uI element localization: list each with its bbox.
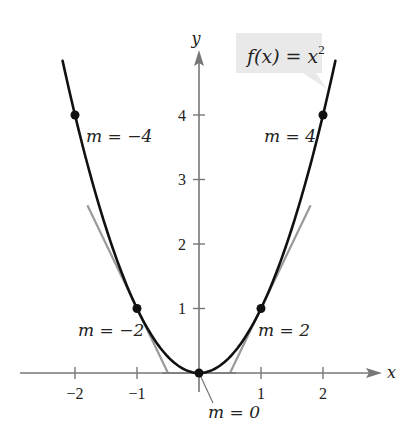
function-label-text: f(x) = x2: [245, 42, 325, 67]
slope-label-m-2: m = 2: [258, 320, 310, 340]
x-tick-label: 1: [257, 385, 265, 402]
x-tick-label: 2: [319, 385, 327, 402]
point-1-1: [257, 304, 266, 313]
y-tick-label: 3: [178, 171, 186, 188]
point-neg2-4: [71, 111, 80, 120]
x-axis: x −2 −1 1 2: [20, 363, 396, 402]
x-tick-label: −1: [128, 385, 145, 402]
x-axis-label: x: [387, 363, 396, 382]
y-tick-label: 2: [178, 236, 186, 253]
point-0-0: [195, 369, 204, 378]
slope-label-m-neg2: m = −2: [78, 320, 144, 340]
m0-leader-line: [201, 377, 213, 403]
y-tick-label: 1: [178, 300, 186, 317]
slope-label-m-neg4: m = −4: [86, 126, 152, 146]
slope-label-m-0: m = 0: [208, 402, 260, 422]
y-tick-label: 4: [178, 107, 186, 124]
y-axis-label: y: [190, 29, 201, 48]
slope-label-m-4: m = 4: [264, 126, 316, 146]
y-axis: y 1 2 3 4: [178, 29, 205, 392]
point-neg1-1: [133, 304, 142, 313]
point-2-4: [319, 111, 328, 120]
function-label-callout: f(x) = x2: [236, 33, 327, 89]
x-tick-label: −2: [66, 385, 83, 402]
parabola-tangent-figure: f(x) = x2 x −2 −1 1 2: [0, 0, 416, 432]
